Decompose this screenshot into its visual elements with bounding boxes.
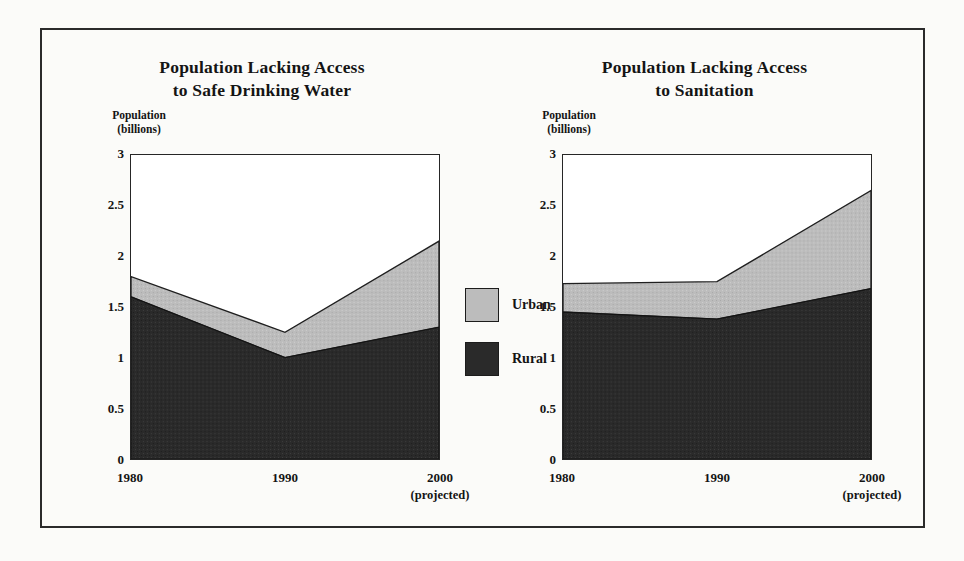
x-tick-sanitation-1990: 1990 bbox=[704, 470, 730, 487]
chart-title-water-line1: Population Lacking Access bbox=[62, 56, 462, 79]
y-tick-water-2_5: 2.5 bbox=[108, 197, 124, 213]
plot-area-sanitation bbox=[562, 154, 872, 460]
y-tick-water-3: 3 bbox=[118, 146, 125, 162]
y-tick-water-1_5: 1.5 bbox=[108, 299, 124, 315]
y-tick-sanitation-2_5: 2.5 bbox=[540, 197, 556, 213]
chart-title-sanitation-line2: to Sanitation bbox=[502, 79, 907, 102]
area-chart-sanitation bbox=[563, 155, 871, 459]
y-axis-caption-sanitation-line1: Population bbox=[514, 108, 624, 122]
area-chart-water bbox=[131, 155, 439, 459]
y-tick-sanitation-2: 2 bbox=[550, 248, 557, 264]
x-tick-sanitation-2000-sublabel: (projected) bbox=[843, 487, 902, 503]
figure-frame: Population Lacking Access to Safe Drinki… bbox=[40, 28, 925, 528]
y-tick-sanitation-1_5: 1.5 bbox=[540, 299, 556, 315]
x-tick-sanitation-1980: 1980 bbox=[549, 470, 575, 487]
y-tick-water-0: 0 bbox=[118, 452, 125, 468]
chart-title-water: Population Lacking Access to Safe Drinki… bbox=[62, 56, 462, 102]
x-tick-water-1990: 1990 bbox=[272, 470, 298, 487]
y-axis-ticks-sanitation: 3 2.5 2 1.5 1 0.5 0 bbox=[512, 154, 556, 494]
x-tick-water-2000-sublabel: (projected) bbox=[411, 487, 470, 503]
chart-panel-sanitation: Population Lacking Access to Sanitation … bbox=[502, 30, 907, 530]
legend-swatch-rural-icon bbox=[465, 342, 499, 376]
y-tick-sanitation-3: 3 bbox=[550, 146, 557, 162]
y-tick-sanitation-0: 0 bbox=[550, 452, 557, 468]
y-tick-water-1: 1 bbox=[118, 350, 125, 366]
chart-title-water-line2: to Safe Drinking Water bbox=[62, 79, 462, 102]
y-tick-sanitation-1: 1 bbox=[550, 350, 557, 366]
plot-area-water bbox=[130, 154, 440, 460]
y-tick-water-0_5: 0.5 bbox=[108, 401, 124, 417]
x-tick-sanitation-2000: 2000 (projected) bbox=[843, 470, 902, 503]
chart-title-sanitation-line1: Population Lacking Access bbox=[502, 56, 907, 79]
y-axis-caption-water-line1: Population bbox=[84, 108, 194, 122]
y-axis-caption-water: Population (billions) bbox=[84, 108, 194, 137]
x-tick-water-1980: 1980 bbox=[117, 470, 143, 487]
legend-swatch-urban-icon bbox=[465, 288, 499, 322]
chart-panel-water: Population Lacking Access to Safe Drinki… bbox=[62, 30, 462, 530]
y-axis-caption-sanitation-line2: (billions) bbox=[514, 122, 624, 136]
y-tick-water-2: 2 bbox=[118, 248, 125, 264]
y-axis-ticks-water: 3 2.5 2 1.5 1 0.5 0 bbox=[80, 154, 124, 494]
y-axis-caption-sanitation: Population (billions) bbox=[514, 108, 624, 137]
y-tick-sanitation-0_5: 0.5 bbox=[540, 401, 556, 417]
y-axis-caption-water-line2: (billions) bbox=[84, 122, 194, 136]
x-tick-water-2000: 2000 (projected) bbox=[411, 470, 470, 503]
chart-title-sanitation: Population Lacking Access to Sanitation bbox=[502, 56, 907, 102]
